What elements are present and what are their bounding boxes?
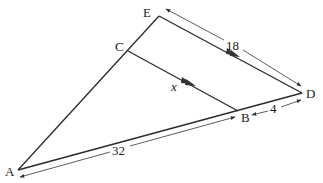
vertex-label-e: E (143, 5, 151, 20)
vertex-label-d: D (306, 86, 315, 101)
measure-cb-label: x (170, 79, 177, 94)
segment-ae (18, 16, 159, 170)
segment-ad (18, 93, 302, 170)
measure-ed-label: 18 (226, 38, 239, 53)
vertex-label-c: C (115, 39, 124, 54)
dimension-bd (252, 100, 301, 115)
vertex-label-b: B (241, 110, 250, 125)
vertex-label-a: A (5, 164, 15, 179)
similar-triangles-diagram: 18 4 32 x A B C D E (0, 0, 323, 183)
measure-ab-label: 32 (112, 143, 125, 158)
parallel-mark-cb-icon (181, 77, 196, 86)
measure-bd-label: 4 (270, 101, 277, 116)
dimension-ab (20, 117, 235, 177)
